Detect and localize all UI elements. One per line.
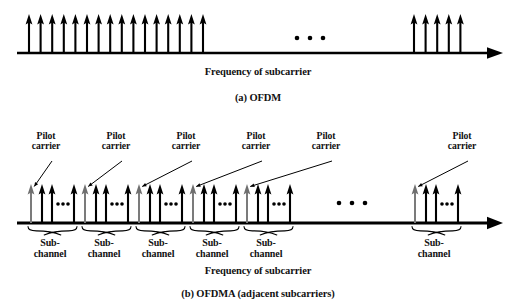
subchannel-6 — [412, 184, 462, 223]
panel-a-subcarrier-11 — [142, 14, 149, 53]
subchannel-6-subcarrier-arrow-3 — [455, 184, 462, 223]
ellipsis-dot-3 — [321, 36, 326, 41]
ellipsis-dot-2 — [350, 201, 355, 206]
subchannel-2-brace — [82, 227, 131, 235]
subchannel-2 — [82, 184, 132, 223]
panel-b — [17, 161, 503, 235]
panel-a-subcarrier-15 — [188, 14, 195, 53]
panel-a-subcarrier-3 — [49, 14, 56, 53]
subchannel-5-pilot-leader — [250, 161, 332, 187]
panel-a-ellipsis-dots — [295, 36, 326, 41]
subchannel-2-inner-ellipsis — [110, 202, 124, 206]
ellipsis-dot-2 — [445, 202, 449, 206]
subchannel-5-inner-ellipsis — [272, 202, 286, 206]
subchannel-4-subcarrier-arrow-2 — [211, 184, 218, 223]
subchannel-1 — [28, 184, 78, 223]
panel-a-subcarrier-7 — [95, 14, 102, 53]
panel-a-subcarrier-5 — [72, 14, 79, 53]
subchannel-4-inner-ellipsis — [218, 202, 232, 206]
subchannel-6-pilot-carrier-arrow — [412, 184, 419, 223]
pilot-carrier-label-1: Pilotcarrier — [32, 131, 60, 152]
subchannel-label-line2: channel — [142, 248, 175, 259]
subchannel-5-subcarrier-arrow-2 — [265, 184, 272, 223]
ellipsis-dot-3 — [174, 202, 178, 206]
ellipsis-dot-2 — [61, 202, 65, 206]
leader-line — [196, 161, 262, 187]
panel-a-subcarrier-13 — [165, 14, 172, 53]
subchannel-5 — [244, 184, 294, 223]
pilot-carrier-label-line2: carrier — [102, 141, 130, 151]
subchannel-1-pilot-carrier-arrow — [28, 184, 35, 223]
leader-arrowhead — [34, 182, 38, 187]
subchannel-4-pilot-carrier-arrow — [190, 184, 197, 223]
pilot-carrier-label-2: Pilotcarrier — [102, 131, 130, 152]
pilot-carrier-label-line2: carrier — [32, 141, 60, 151]
panel-a-axis-label: Frequency of subcarrier — [205, 66, 312, 77]
subchannel-5-pilot-carrier-arrow — [244, 184, 251, 223]
subchannel-1-subcarrier-arrow-3 — [71, 184, 78, 223]
ellipsis-dot-2 — [308, 36, 313, 41]
subchannel-2-subcarrier-arrow-3 — [125, 184, 132, 223]
subchannel-3-brace — [136, 227, 185, 235]
panel-b-ellipsis — [337, 201, 368, 206]
subchannel-1-inner-ellipsis — [56, 202, 70, 206]
panel-a-subcarrier-1 — [26, 14, 33, 53]
subchannel-1-subcarrier-arrow-1 — [39, 184, 46, 223]
ellipsis-dot-2 — [169, 202, 173, 206]
subchannel-5-subcarrier-arrow-1 — [255, 184, 262, 223]
subchannel-label-line2: channel — [418, 248, 451, 259]
subchannel-label-line1: Sub- — [196, 237, 229, 248]
panel-a-subcarrier-10 — [130, 14, 137, 53]
subchannel-4-pilot-leader — [196, 161, 262, 187]
panel-b-ellipsis-dots — [337, 201, 368, 206]
pilot-carrier-label-line2: carrier — [172, 141, 200, 151]
panel-b-axis-label: Frequency of subcarrier — [205, 265, 312, 276]
panel-a-subcarrier-r4 — [445, 14, 452, 53]
leader-line — [250, 161, 332, 187]
panel-a-subcarrier-12 — [153, 14, 160, 53]
pilot-carrier-label-4: Pilotcarrier — [242, 131, 270, 152]
ellipsis-dot-1 — [295, 36, 300, 41]
subchannel-6-pilot-leader — [418, 161, 468, 187]
subchannel-6-brace — [412, 227, 461, 235]
panel-a-axis — [17, 47, 503, 59]
panel-a — [17, 14, 503, 59]
ellipsis-dot-2 — [277, 202, 281, 206]
leader-arrowhead — [250, 183, 255, 187]
subchannel-2-subcarrier-arrow-2 — [103, 184, 110, 223]
subchannel-label-line2: channel — [196, 248, 229, 259]
pilot-carrier-label-3: Pilotcarrier — [172, 131, 200, 152]
subchannel-4-subcarrier-arrow-3 — [233, 184, 240, 223]
leader-line — [142, 161, 192, 187]
subchannel-2-pilot-carrier-arrow — [82, 184, 89, 223]
subchannel-3-subcarrier-arrow-1 — [147, 184, 154, 223]
subchannel-label-4: Sub-channel — [196, 237, 229, 259]
pilot-carrier-label-6: Pilotcarrier — [448, 131, 476, 152]
panel-a-ellipsis — [295, 36, 326, 41]
pilot-carrier-label-line2: carrier — [312, 141, 340, 151]
ellipsis-dot-3 — [66, 202, 70, 206]
subchannel-label-3: Sub-channel — [142, 237, 175, 259]
subchannel-3-inner-ellipsis — [164, 202, 178, 206]
panel-a-subcarrier-16 — [200, 14, 207, 53]
subchannel-label-5: Sub-channel — [250, 237, 283, 259]
panel-a-subcarrier-6 — [84, 14, 91, 53]
ellipsis-dot-3 — [282, 202, 286, 206]
panel-a-caption: (a) OFDM — [235, 92, 281, 103]
pilot-carrier-label-5: Pilotcarrier — [312, 131, 340, 152]
ellipsis-dot-3 — [363, 201, 368, 206]
subchannel-label-line1: Sub- — [34, 237, 67, 248]
subchannel-4-brace — [190, 227, 239, 235]
ellipsis-dot-3 — [450, 202, 454, 206]
panel-a-subcarrier-4 — [60, 14, 67, 53]
subchannel-5-subcarrier-arrow-3 — [287, 184, 294, 223]
leader-arrowhead — [196, 183, 201, 186]
panel-b-axis — [17, 217, 503, 229]
panel-b-caption: (b) OFDMA (adjacent subcarriers) — [181, 288, 334, 299]
subchannel-label-line1: Sub- — [418, 237, 451, 248]
panel-a-subcarrier-14 — [176, 14, 183, 53]
panel-a-subcarriers-left — [26, 14, 207, 53]
subchannel-6-inner-ellipsis — [440, 202, 454, 206]
ellipsis-dot-1 — [164, 202, 168, 206]
panel-a-subcarrier-8 — [107, 14, 114, 53]
